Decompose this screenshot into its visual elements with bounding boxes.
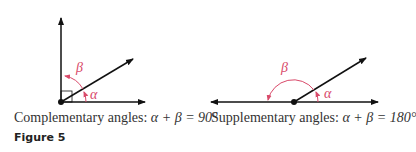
figure-label: Figure 5	[14, 131, 65, 144]
beta-label: β	[280, 60, 288, 75]
caption-text: Supplementary angles:	[211, 110, 342, 125]
caption-equation: α + β = 180°	[342, 110, 416, 125]
supplementary-caption: Supplementary angles: α + β = 180°	[211, 110, 416, 126]
alpha-label: α	[324, 86, 332, 101]
complementary-caption: Complementary angles: α + β = 90°	[14, 110, 218, 126]
complementary-diagram: β α	[58, 18, 145, 105]
vertex-point	[291, 99, 297, 105]
vertex-point	[58, 99, 64, 105]
alpha-arc	[84, 92, 86, 102]
beta-arc	[65, 76, 83, 89]
caption-text: Complementary angles:	[14, 110, 151, 125]
beta-arc	[268, 80, 314, 100]
alpha-label: α	[90, 87, 98, 102]
beta-label: β	[75, 60, 83, 75]
alpha-arc	[316, 92, 318, 102]
supplementary-diagram: β α	[211, 58, 378, 105]
caption-equation: α + β = 90°	[151, 110, 218, 125]
